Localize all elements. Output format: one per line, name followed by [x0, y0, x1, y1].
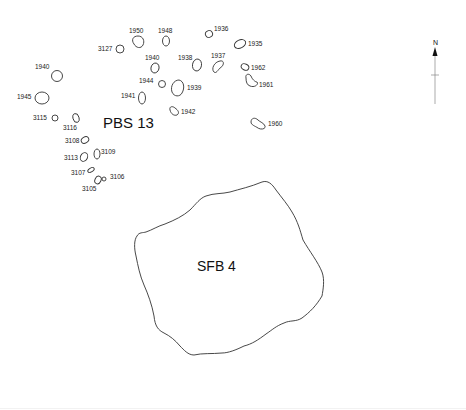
label-1940b: 1940 [35, 63, 50, 70]
label-1936: 1936 [214, 25, 229, 32]
posthole-1945 [35, 92, 49, 104]
label-3105: 3105 [82, 185, 97, 192]
posthole-3116 [72, 113, 80, 123]
posthole-1950 [133, 36, 144, 48]
posthole-3127 [116, 45, 124, 53]
posthole-1948 [163, 36, 170, 46]
label-1939: 1939 [187, 84, 202, 91]
label-1942: 1942 [181, 108, 196, 115]
north-label: N [433, 39, 438, 46]
label-1945: 1945 [17, 93, 32, 100]
posthole-features [35, 29, 265, 185]
label-1961: 1961 [259, 81, 274, 88]
posthole-1941 [139, 92, 146, 104]
posthole-1935 [233, 38, 247, 50]
structure-label-pbs: PBS 13 [103, 114, 154, 131]
posthole-1961 [246, 74, 258, 86]
posthole-3113 [79, 151, 89, 162]
label-3116: 3116 [63, 124, 77, 131]
posthole-3105 [94, 175, 103, 185]
posthole-1938 [192, 58, 203, 71]
posthole-1944 [159, 81, 166, 88]
structure-label-sfb: SFB 4 [197, 258, 236, 274]
label-1938: 1938 [178, 54, 193, 61]
label-3107: 3107 [71, 169, 86, 176]
label-1960: 1960 [268, 120, 283, 127]
label-3113: 3113 [64, 154, 78, 161]
posthole-1939 [171, 80, 183, 96]
label-1944: 1944 [139, 77, 154, 84]
label-1948: 1948 [158, 27, 173, 34]
bottom-border [0, 408, 466, 409]
posthole-1940b [52, 71, 63, 82]
posthole-3107 [87, 167, 95, 174]
posthole-1942 [170, 107, 179, 116]
posthole-3108 [80, 135, 90, 144]
label-3106: 3106 [110, 173, 125, 180]
label-1935: 1935 [248, 40, 263, 47]
label-3109: 3109 [101, 148, 116, 155]
site-plan: 3127 1950 1948 1936 1935 1940 1938 1937 … [0, 0, 466, 410]
posthole-1936 [204, 29, 214, 38]
label-3108: 3108 [65, 137, 80, 144]
posthole-1962 [240, 63, 250, 72]
label-1950: 1950 [129, 27, 144, 34]
posthole-1960 [251, 118, 265, 129]
posthole-3115 [52, 115, 58, 121]
posthole-3106 [102, 177, 106, 181]
posthole-1940a [150, 62, 160, 74]
posthole-labels: 3127 1950 1948 1936 1935 1940 1938 1937 … [17, 25, 283, 192]
north-arrow-icon: N [431, 39, 439, 104]
label-1937: 1937 [211, 52, 226, 59]
label-3115: 3115 [33, 114, 47, 121]
posthole-1937 [213, 61, 224, 73]
posthole-3109 [94, 149, 100, 159]
label-1941: 1941 [121, 92, 136, 99]
label-1940a: 1940 [145, 54, 160, 61]
label-1962: 1962 [251, 64, 266, 71]
label-3127: 3127 [98, 45, 113, 52]
